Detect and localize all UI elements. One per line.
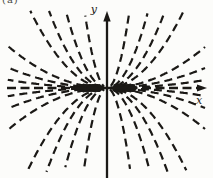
figure: (a) y x [0,0,213,178]
solution-curve [110,88,186,170]
y-axis-label: y [90,3,98,16]
phase-portrait-svg: y x [0,0,213,178]
x-axis-label: x [196,94,203,107]
solution-curve [110,89,130,168]
y-axis [103,11,110,178]
solution-curve [110,11,184,88]
solution-curve [110,16,129,87]
solution-curve [85,16,104,87]
solution-curve [110,88,168,172]
solution-curve [28,88,104,170]
y-axis-arrowhead-icon [103,11,110,22]
x-axis-arrowhead-icon [197,84,207,91]
solution-curve [84,89,104,168]
figure-panel-label: (a) [2,0,19,5]
